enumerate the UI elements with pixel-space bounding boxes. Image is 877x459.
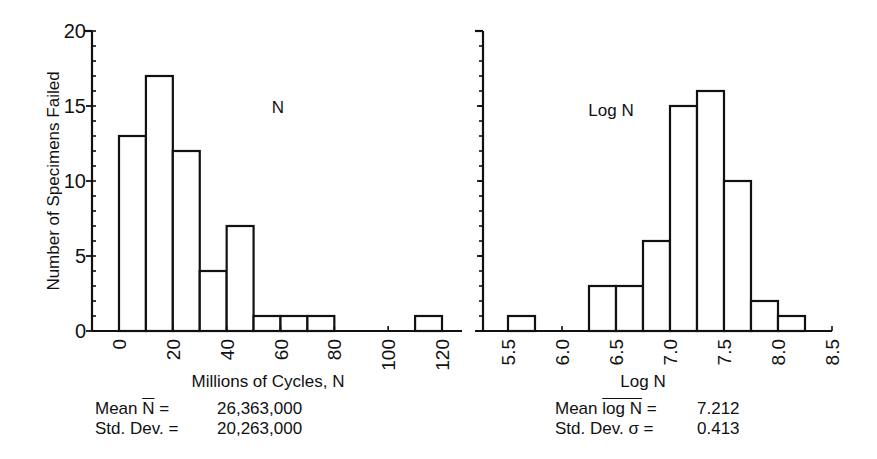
y-tick-label: 10 [64,170,86,192]
x-tick-label: 7.5 [714,339,735,365]
left-stats: Mean N = 26,363,000 Std. Dev. = 20,263,0… [95,399,302,439]
y-tick-label: 5 [75,245,86,267]
x-axis-label: Log N [620,372,665,391]
histogram-bar [227,226,254,331]
histogram-bar [173,151,200,331]
right-mean-label: Mean log N = [555,399,697,419]
left-histogram: 05101520020406080100120NMillions of Cycl… [44,20,462,391]
x-tick-label: 6.5 [606,339,627,365]
right-sd-row: Std. Dev. σ = 0.413 [555,419,740,439]
histogram-bar [616,286,643,331]
x-tick-label: 8.0 [768,339,789,365]
x-tick-label: 7.0 [660,339,681,365]
left-sd-label: Std. Dev. = [95,419,217,439]
histogram-bar [751,301,778,331]
left-sd-row: Std. Dev. = 20,263,000 [95,419,302,439]
y-tick-label: 15 [64,95,86,117]
mean-symbol: N [142,399,154,418]
histogram-bar [146,76,173,331]
histogram-bar [724,181,751,331]
right-sd-label: Std. Dev. σ = [555,419,697,439]
x-tick-label: 100 [378,339,399,371]
histogram-bar [589,286,616,331]
left-sd-value: 20,263,000 [217,419,302,439]
histogram-bar [670,106,697,331]
y-tick-label: 0 [75,320,86,342]
histogram-bar [307,316,334,331]
histogram-bar [281,316,308,331]
right-mean-row: Mean log N = 7.212 [555,399,740,419]
left-mean-value: 26,363,000 [217,399,302,419]
histogram-bar [415,316,442,331]
x-tick-label: 8.5 [822,339,843,365]
histogram-bar [778,316,805,331]
right-histogram: 5.56.06.57.07.58.08.5Log NLog N [475,31,843,391]
x-tick-label: 80 [324,339,345,360]
y-tick-label: 20 [64,20,86,42]
x-tick-label: 5.5 [498,339,519,365]
x-tick-label: 40 [217,339,238,360]
left-mean-row: Mean N = 26,363,000 [95,399,302,419]
x-tick-label: 60 [271,339,292,360]
histogram-figure: 05101520020406080100120NMillions of Cycl… [0,0,877,459]
x-axis-label: Millions of Cycles, N [191,372,344,391]
histogram-bar [200,271,227,331]
right-mean-value: 7.212 [697,399,740,419]
histogram-bar [508,316,535,331]
x-tick-label: 120 [432,339,453,371]
histogram-bar [697,91,724,331]
mean-label-prefix: Mean [95,399,142,418]
histogram-bar [643,241,670,331]
mean-label-suffix: = [155,399,170,418]
x-tick-label: 6.0 [552,339,573,365]
left-mean-label: Mean N = [95,399,217,419]
panel-title: Log N [588,101,633,120]
panel-title: N [272,98,284,117]
histogram-bar [119,136,146,331]
mean-symbol: log N [602,399,642,418]
y-axis-label: Number of Specimens Failed [44,71,63,290]
histogram-bar [254,316,281,331]
mean-label-suffix: = [642,399,657,418]
right-stats: Mean log N = 7.212 Std. Dev. σ = 0.413 [555,399,740,439]
right-sd-value: 0.413 [697,419,740,439]
mean-label-prefix: Mean [555,399,602,418]
x-tick-label: 20 [163,339,184,360]
x-tick-label: 0 [109,339,130,350]
